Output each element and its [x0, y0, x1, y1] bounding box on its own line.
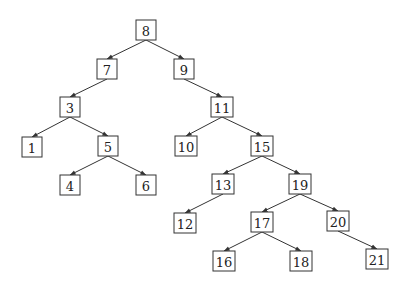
node-label: 12: [177, 217, 194, 232]
edge-arrow-3-5: [70, 117, 108, 136]
edges-group: [32, 40, 377, 251]
edge-arrow-17-18: [262, 232, 301, 251]
node-label: 8: [142, 24, 150, 39]
tree-node-15: 15: [251, 136, 273, 156]
node-label: 20: [330, 215, 347, 230]
tree-node-8: 8: [136, 20, 156, 40]
edge-arrow-3-1: [32, 117, 70, 137]
edge-arrow-5-4: [70, 156, 108, 175]
tree-node-10: 10: [175, 136, 197, 156]
tree-node-20: 20: [327, 211, 349, 231]
edge-arrow-13-12: [185, 194, 223, 213]
tree-node-3: 3: [60, 97, 80, 117]
tree-node-18: 18: [290, 251, 312, 271]
edge-arrow-19-20: [300, 194, 338, 211]
tree-node-17: 17: [251, 212, 273, 232]
edge-arrow-20-21: [338, 231, 377, 249]
edge-arrow-8-7: [107, 40, 146, 59]
tree-node-11: 11: [211, 97, 233, 117]
tree-node-19: 19: [289, 174, 311, 194]
binary-tree-diagram: 879311151015461319121720161821: [0, 0, 408, 283]
edge-arrow-8-9: [146, 40, 184, 59]
node-label: 4: [66, 179, 74, 194]
node-label: 17: [254, 216, 271, 231]
tree-node-1: 1: [22, 137, 42, 157]
node-label: 18: [293, 255, 310, 270]
edge-arrow-11-10: [186, 117, 222, 136]
tree-node-16: 16: [213, 251, 235, 271]
edge-arrow-9-11: [184, 79, 222, 97]
node-label: 9: [180, 63, 188, 78]
edge-arrow-5-6: [108, 156, 146, 175]
edge-arrow-19-17: [262, 194, 300, 212]
node-label: 13: [215, 178, 232, 193]
tree-node-12: 12: [174, 213, 196, 233]
tree-node-5: 5: [98, 136, 118, 156]
edge-arrow-11-15: [222, 117, 262, 136]
tree-node-6: 6: [136, 175, 156, 195]
node-label: 21: [369, 253, 386, 268]
node-label: 7: [103, 63, 111, 78]
node-label: 3: [66, 101, 74, 116]
node-label: 19: [292, 178, 309, 193]
tree-node-7: 7: [97, 59, 117, 79]
edge-arrow-7-3: [70, 79, 107, 97]
node-label: 5: [104, 140, 112, 155]
node-label: 11: [214, 101, 231, 116]
node-label: 15: [254, 140, 271, 155]
node-label: 6: [142, 179, 150, 194]
edge-arrow-17-16: [224, 232, 262, 251]
tree-node-13: 13: [212, 174, 234, 194]
tree-node-4: 4: [60, 175, 80, 195]
edge-arrow-15-19: [262, 156, 300, 174]
node-label: 1: [28, 141, 36, 156]
node-label: 10: [178, 140, 195, 155]
nodes-group: 879311151015461319121720161821: [22, 20, 388, 271]
tree-node-9: 9: [174, 59, 194, 79]
edge-arrow-15-13: [223, 156, 262, 174]
tree-node-21: 21: [366, 249, 388, 269]
node-label: 16: [216, 255, 233, 270]
